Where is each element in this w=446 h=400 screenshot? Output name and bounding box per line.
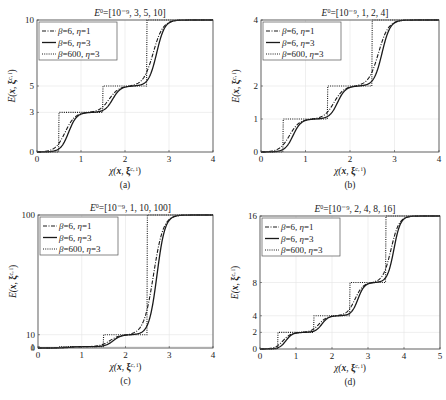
legend-entry: β=6, η=3	[281, 38, 315, 48]
y-tick-label: 5	[30, 81, 35, 91]
x-tick-label: 3	[366, 351, 371, 361]
x-axis-label: χ(x, ξc, i)	[108, 166, 141, 178]
legend-entry: β=6, η=1	[280, 222, 314, 232]
legend-entry: β=600, η=3	[280, 245, 323, 255]
x-tick-label: 1	[294, 351, 299, 361]
chart-panel-c: 012340110100E0=[10⁻⁹, 1, 10, 100]χ(x, ξc…	[8, 203, 216, 388]
x-tick-label: 0	[259, 154, 264, 164]
y-tick-label: 0	[253, 344, 258, 354]
y-tick-label: 8	[253, 278, 258, 288]
legend-entry: β=6, η=3	[57, 38, 91, 48]
y-tick-label: 4	[253, 311, 258, 321]
x-tick-label: 5	[438, 351, 443, 361]
x-tick-label: 2	[348, 154, 353, 164]
x-tick-label: 0	[36, 350, 41, 360]
y-axis-label: E(x, ξc, i)	[7, 69, 19, 103]
x-axis-label: χ(x, ξc, i)	[333, 363, 366, 375]
legend-entry: β=6, η=1	[58, 221, 92, 231]
y-tick-label: 4	[254, 15, 259, 25]
x-tick-label: 4	[211, 154, 216, 164]
panel-label: (a)	[120, 180, 131, 191]
x-tick-label: 2	[123, 154, 128, 164]
x-tick-label: 3	[167, 154, 172, 164]
y-axis-label: E(x, ξc, i)	[8, 265, 20, 299]
legend-entry: β=6, η=1	[57, 26, 91, 36]
y-tick-label: 10	[26, 330, 36, 340]
legend: β=6, η=1β=6, η=3β=600, η=3	[262, 218, 340, 256]
legend: β=6, η=1β=6, η=3β=600, η=3	[40, 217, 118, 255]
y-tick-label: 16	[248, 211, 258, 221]
y-tick-label: 1	[31, 342, 36, 352]
x-tick-label: 0	[258, 351, 263, 361]
y-axis-label: E(x, ξc, i)	[231, 69, 243, 103]
x-tick-label: 2	[330, 351, 335, 361]
chart-title: E0=[10⁻⁹, 1, 2, 4]	[321, 8, 389, 19]
chart-panel-b: 012340124E0=[10⁻⁹, 1, 2, 4]χ(x, ξc, i)E(…	[231, 8, 442, 192]
legend-entry: β=600, η=3	[57, 49, 100, 59]
panel-label: (c)	[120, 376, 131, 387]
chart-panel-d: 012345024816E0=[10⁻⁹, 2, 4, 8, 16]χ(x, ξ…	[230, 204, 443, 389]
x-tick-label: 3	[167, 350, 172, 360]
x-tick-label: 4	[437, 154, 442, 164]
x-axis-label: χ(x, ξc, i)	[109, 362, 142, 374]
y-axis-label: E(x, ξc, i)	[230, 266, 242, 300]
chart-title: E0=[10⁻⁹, 3, 5, 10]	[93, 8, 166, 19]
x-tick-label: 0	[35, 154, 40, 164]
y-tick-label: 10	[25, 15, 35, 25]
legend: β=6, η=1β=6, η=3β=600, η=3	[263, 22, 341, 60]
legend-entry: β=6, η=3	[58, 233, 92, 243]
y-tick-label: 2	[254, 81, 259, 91]
panel-label: (b)	[344, 180, 355, 191]
chart-title: E0=[10⁻⁹, 2, 4, 8, 16]	[313, 204, 395, 215]
x-tick-label: 4	[402, 351, 407, 361]
figure: 0123403510E0=[10⁻⁹, 3, 5, 10]χ(x, ξc, i)…	[0, 0, 446, 400]
chart-title: E0=[10⁻⁹, 1, 10, 100]	[89, 203, 171, 214]
legend: β=6, η=1β=6, η=3β=600, η=3	[39, 22, 117, 60]
panel-label: (d)	[344, 377, 355, 388]
y-tick-label: 100	[22, 210, 36, 220]
y-tick-label: 3	[30, 107, 35, 117]
y-tick-label: 1	[254, 114, 259, 124]
legend-entry: β=600, η=3	[281, 49, 324, 59]
legend-entry: β=6, η=1	[281, 26, 315, 36]
x-tick-label: 2	[123, 350, 128, 360]
legend-entry: β=6, η=3	[280, 234, 314, 244]
x-tick-label: 1	[80, 350, 85, 360]
y-tick-label: 0	[30, 147, 35, 157]
x-tick-label: 4	[211, 350, 216, 360]
chart-panel-a: 0123403510E0=[10⁻⁹, 3, 5, 10]χ(x, ξc, i)…	[7, 8, 216, 192]
y-tick-label: 2	[253, 327, 258, 337]
legend-entry: β=600, η=3	[58, 244, 101, 254]
y-tick-label: 0	[254, 147, 259, 157]
x-tick-label: 1	[303, 154, 308, 164]
x-tick-label: 1	[79, 154, 84, 164]
x-tick-label: 3	[392, 154, 397, 164]
x-axis-label: χ(x, ξc, i)	[333, 166, 366, 178]
